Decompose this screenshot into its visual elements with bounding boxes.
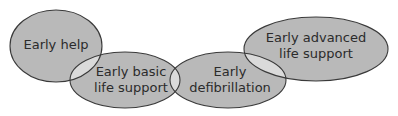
label-line: Early basic — [94, 64, 168, 80]
label-line: life support — [94, 80, 168, 96]
label-early-defibrillation: Early defibrillation — [189, 64, 271, 96]
label-line: life support — [266, 46, 366, 62]
label-line: Early advanced — [266, 30, 366, 46]
label-line: defibrillation — [189, 80, 271, 96]
label-line: Early help — [23, 37, 88, 53]
label-early-advanced-life-support: Early advanced life support — [266, 30, 366, 62]
label-line: Early — [189, 64, 271, 80]
label-early-help: Early help — [23, 37, 88, 53]
label-early-basic-life-support: Early basic life support — [94, 64, 168, 96]
chain-of-survival-diagram: Early help Early basic life support Earl… — [0, 0, 398, 116]
